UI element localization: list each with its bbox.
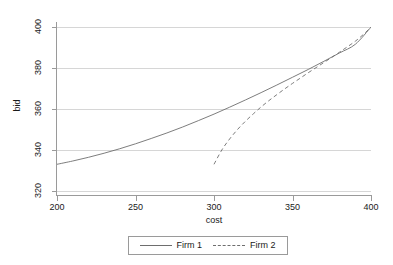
x-tick-mark — [214, 196, 215, 201]
x-tick-mark — [136, 196, 137, 201]
legend-label: Firm 2 — [250, 241, 282, 250]
y-tick-label: 340 — [34, 134, 43, 164]
legend: Firm 1Firm 2 — [128, 236, 288, 255]
x-axis-title: cost — [57, 216, 371, 225]
legend-entry: Firm 1 — [135, 241, 209, 250]
x-tick-label: 300 — [194, 203, 234, 212]
legend-entry: Firm 2 — [208, 241, 282, 250]
x-tick-mark — [293, 196, 294, 201]
x-tick-mark — [371, 196, 372, 201]
x-tick-label: 200 — [37, 203, 77, 212]
legend-label: Firm 1 — [177, 241, 209, 250]
series-plot — [57, 23, 371, 195]
legend-line-sample-icon — [140, 245, 172, 246]
x-tick-label: 400 — [351, 203, 391, 212]
y-axis-title: bid — [13, 86, 22, 126]
chart-figure: 320340360380400 200250300350400 bid cost… — [0, 0, 393, 265]
x-tick-label: 250 — [116, 203, 156, 212]
y-tick-label: 320 — [34, 175, 43, 205]
y-tick-label: 380 — [34, 53, 43, 83]
y-tick-label: 360 — [34, 94, 43, 124]
series-line-firm-1 — [57, 27, 371, 164]
x-tick-mark — [57, 196, 58, 201]
y-tick-label: 400 — [34, 12, 43, 42]
legend-line-sample-icon — [213, 245, 245, 246]
x-axis-line — [56, 195, 372, 196]
x-tick-label: 350 — [273, 203, 313, 212]
series-line-firm-2 — [214, 27, 371, 164]
